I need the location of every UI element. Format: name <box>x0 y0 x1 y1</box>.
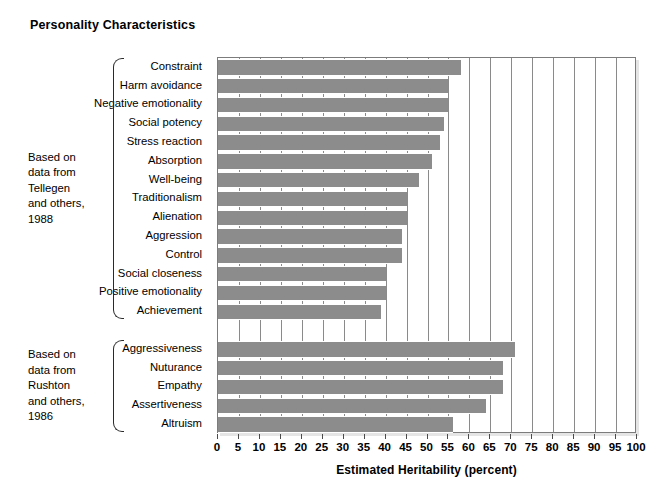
x-tick-label: 100 <box>626 441 645 453</box>
x-axis-tickmarks <box>217 434 636 440</box>
x-tick-label: 30 <box>336 441 349 453</box>
category-label: Constraint <box>151 61 203 72</box>
plot-area <box>217 57 636 433</box>
bar <box>218 285 386 301</box>
bar <box>218 228 402 244</box>
x-tick-label: 25 <box>315 441 328 453</box>
x-tick-label: 15 <box>273 441 286 453</box>
tickmark-10 <box>259 434 260 439</box>
x-tick-label: 35 <box>357 441 370 453</box>
bar <box>218 360 503 376</box>
x-tick-label: 5 <box>235 441 241 453</box>
category-label: Altruism <box>161 418 202 429</box>
tickmark-60 <box>468 434 469 439</box>
personality-heritability-chart: Personality Characteristics ConstraintHa… <box>0 0 671 495</box>
bar <box>218 116 444 132</box>
category-label: Empathy <box>157 380 202 391</box>
tickmark-15 <box>280 434 281 439</box>
bar <box>218 59 461 75</box>
tickmark-45 <box>406 434 407 439</box>
x-tick-label: 0 <box>214 441 220 453</box>
bar <box>218 247 402 263</box>
bar <box>218 172 419 188</box>
page-title: Personality Characteristics <box>30 18 195 32</box>
x-axis-tick-labels: 0510152025303540455055606570758085909510… <box>217 441 636 457</box>
tickmark-35 <box>364 434 365 439</box>
group-bracket <box>113 58 124 319</box>
tickmark-100 <box>636 434 637 439</box>
category-label: Alienation <box>152 211 202 222</box>
category-label: Control <box>166 249 202 260</box>
category-label: Aggression <box>145 230 202 241</box>
category-label: Social potency <box>129 117 202 128</box>
x-tick-label: 20 <box>294 441 307 453</box>
category-label: Absorption <box>148 155 202 166</box>
x-tick-label: 55 <box>441 441 454 453</box>
bar <box>218 78 448 94</box>
x-tick-label: 40 <box>378 441 391 453</box>
tickmark-5 <box>238 434 239 439</box>
x-tick-label: 60 <box>462 441 475 453</box>
tickmark-90 <box>594 434 595 439</box>
category-label: Assertiveness <box>132 399 202 410</box>
tickmark-80 <box>552 434 553 439</box>
tickmark-85 <box>573 434 574 439</box>
tickmark-50 <box>427 434 428 439</box>
category-label: Nuturance <box>150 362 202 373</box>
category-label: Stress reaction <box>127 136 202 147</box>
tickmark-30 <box>343 434 344 439</box>
bar <box>218 304 381 320</box>
tickmark-95 <box>615 434 616 439</box>
bar <box>218 153 432 169</box>
bar <box>218 379 503 395</box>
x-tick-label: 50 <box>420 441 433 453</box>
x-tick-label: 70 <box>504 441 517 453</box>
category-label: Social closeness <box>118 268 202 279</box>
category-label: Traditionalism <box>132 192 202 203</box>
category-label: Achievement <box>137 305 202 316</box>
tickmark-40 <box>385 434 386 439</box>
x-tick-label: 80 <box>546 441 559 453</box>
x-tick-label: 65 <box>483 441 496 453</box>
group-bracket <box>113 340 124 432</box>
tickmark-0 <box>217 434 218 439</box>
tickmark-25 <box>322 434 323 439</box>
category-label: Harm avoidance <box>120 80 202 91</box>
x-tick-label: 10 <box>252 441 265 453</box>
bar <box>218 398 486 414</box>
tickmark-75 <box>531 434 532 439</box>
group-source-note: Based on data from Tellegen and others, … <box>28 150 85 228</box>
bar <box>218 210 407 226</box>
bar <box>218 341 515 357</box>
x-axis-title: Estimated Heritability (percent) <box>217 463 636 477</box>
x-tick-label: 85 <box>567 441 580 453</box>
bar <box>218 416 453 432</box>
tickmark-55 <box>447 434 448 439</box>
category-label: Well-being <box>149 174 202 185</box>
group-source-note: Based on data from Rushton and others, 1… <box>28 347 85 425</box>
tickmark-70 <box>510 434 511 439</box>
bar <box>218 266 386 282</box>
category-label: Negative emotionality <box>94 98 202 109</box>
bar <box>218 97 448 113</box>
tickmark-20 <box>301 434 302 439</box>
x-tick-label: 95 <box>609 441 622 453</box>
bar <box>218 134 440 150</box>
x-tick-label: 90 <box>588 441 601 453</box>
bar <box>218 191 407 207</box>
x-tick-label: 75 <box>525 441 538 453</box>
tickmark-65 <box>489 434 490 439</box>
bars-layer <box>218 58 635 432</box>
x-tick-label: 45 <box>399 441 412 453</box>
category-label: Aggressiveness <box>122 343 202 354</box>
